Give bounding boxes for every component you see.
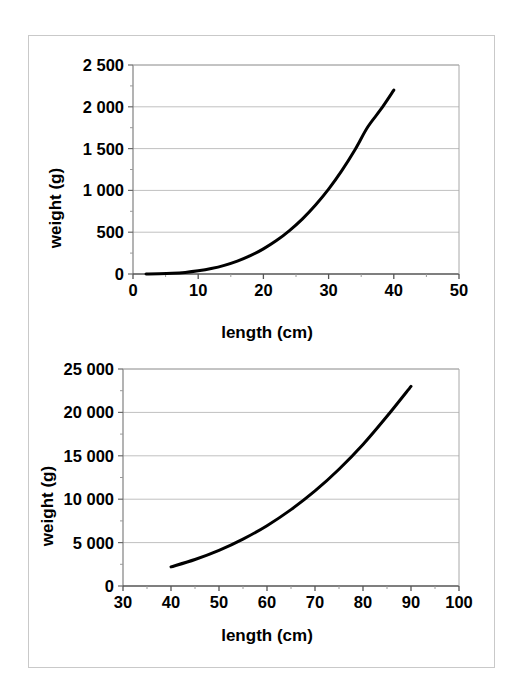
y-tick-label: 5 000 — [73, 534, 114, 552]
x-axis-title-bottom: length (cm) — [221, 626, 313, 645]
y-tick-label: 1 500 — [83, 140, 124, 158]
y-tick-label: 0 — [115, 265, 124, 283]
y-axis-title-top: weight (g) — [46, 168, 65, 249]
x-tick-label: 90 — [402, 593, 420, 611]
x-tick-label: 0 — [128, 281, 137, 299]
y-tick-labels-top: 05001 0001 5002 0002 500 — [83, 56, 124, 283]
x-tick-label: 50 — [210, 593, 228, 611]
y-tick-label: 15 000 — [64, 447, 114, 465]
x-tick-labels-top: 01020304050 — [128, 281, 468, 299]
chart-top: 01020304050 05001 0001 5002 0002 500 len… — [29, 36, 496, 346]
y-tick-label: 25 000 — [64, 360, 114, 378]
y-tick-labels-bottom: 05 00010 00015 00020 00025 000 — [64, 360, 114, 595]
chart-bottom-svg: 30405060708090100 05 00010 00015 00020 0… — [29, 341, 496, 669]
figure-frame: 01020304050 05001 0001 5002 0002 500 len… — [28, 35, 495, 668]
x-tick-label: 40 — [385, 281, 403, 299]
x-tick-marks-bottom — [123, 586, 459, 591]
y-tick-label: 20 000 — [64, 403, 114, 421]
x-tick-labels-bottom: 30405060708090100 — [114, 593, 473, 611]
x-tick-label: 30 — [319, 281, 337, 299]
chart-bottom: 30405060708090100 05 00010 00015 00020 0… — [29, 341, 496, 669]
x-tick-label: 10 — [189, 281, 207, 299]
y-tick-label: 500 — [96, 223, 124, 241]
chart-top-svg: 01020304050 05001 0001 5002 0002 500 len… — [29, 36, 496, 346]
y-tick-label: 1 000 — [83, 181, 124, 199]
y-tick-label: 2 000 — [83, 98, 124, 116]
y-tick-label: 0 — [105, 577, 114, 595]
page-canvas: 01020304050 05001 0001 5002 0002 500 len… — [0, 0, 521, 688]
y-tick-marks-top — [128, 65, 133, 274]
plot-frame-top — [133, 65, 459, 274]
y-axis-title-bottom: weight (g) — [38, 466, 57, 547]
x-tick-label: 80 — [354, 593, 372, 611]
gridlines-bottom — [123, 369, 459, 543]
x-tick-label: 30 — [114, 593, 132, 611]
data-curve-top — [146, 90, 394, 274]
gridlines-top — [133, 65, 459, 232]
x-tick-label: 20 — [254, 281, 272, 299]
y-tick-marks-bottom — [118, 369, 123, 586]
x-tick-label: 70 — [306, 593, 324, 611]
x-axis-title-top: length (cm) — [221, 323, 313, 342]
x-tick-label: 60 — [258, 593, 276, 611]
plot-frame-bottom — [123, 369, 459, 586]
x-tick-label: 50 — [450, 281, 468, 299]
y-tick-label: 2 500 — [83, 56, 124, 74]
data-curve-bottom — [171, 386, 411, 567]
x-tick-marks-top — [133, 274, 459, 279]
y-tick-label: 10 000 — [64, 490, 114, 508]
x-tick-label: 40 — [162, 593, 180, 611]
x-tick-label: 100 — [445, 593, 473, 611]
